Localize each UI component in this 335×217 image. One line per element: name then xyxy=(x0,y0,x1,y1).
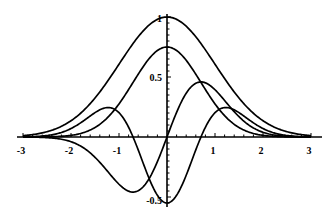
x-tick-label: -2 xyxy=(65,145,73,156)
x-tick-label: 1 xyxy=(211,145,216,156)
tick-labels-group: -3-2-112310.5-0.5 xyxy=(17,13,312,206)
x-tick-label: -1 xyxy=(113,145,121,156)
x-tick-label: 2 xyxy=(259,145,264,156)
y-tick-label: 0.5 xyxy=(150,72,163,83)
y-tick-label: -0.5 xyxy=(146,195,162,206)
x-tick-label: -3 xyxy=(17,145,25,156)
chart-canvas: -3-2-112310.5-0.5 xyxy=(0,0,335,217)
x-tick-label: 3 xyxy=(307,145,312,156)
y-tick-label: 1 xyxy=(157,13,162,24)
